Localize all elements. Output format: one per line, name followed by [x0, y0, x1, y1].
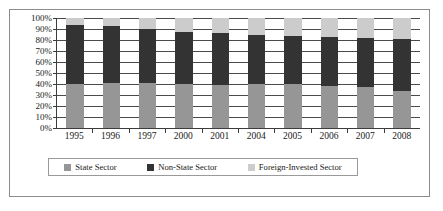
legend-item: State Sector — [64, 163, 116, 172]
chart-legend: State SectorNon-State SectorForeign-Inve… — [48, 158, 358, 176]
segment-state — [66, 84, 83, 128]
segment-non-state — [321, 37, 338, 87]
chart-figure: 0%10%20%30%40%50%60%70%80%90%100% 199519… — [9, 9, 430, 197]
bar-column — [167, 18, 200, 128]
x-tick-label: 1996 — [94, 131, 127, 142]
stacked-bar — [139, 18, 156, 128]
segment-foreign-invested — [321, 18, 338, 37]
y-tick-label: 30% — [36, 91, 53, 100]
segment-non-state — [248, 35, 265, 85]
bar-column — [349, 18, 382, 128]
x-tick-label: 1995 — [57, 131, 90, 142]
segment-foreign-invested — [103, 18, 120, 26]
x-tick-label: 2004 — [239, 131, 272, 142]
segment-state — [357, 87, 374, 128]
segment-state — [393, 91, 410, 128]
y-tick-label: 90% — [36, 25, 53, 34]
y-tick-label: 60% — [36, 58, 53, 67]
bar-column — [313, 18, 346, 128]
segment-foreign-invested — [357, 18, 374, 38]
x-tick-label: 1997 — [130, 131, 163, 142]
legend-label: Non-State Sector — [158, 163, 217, 172]
segment-state — [212, 85, 229, 128]
legend-item: Non-State Sector — [147, 163, 217, 172]
segment-foreign-invested — [248, 18, 265, 35]
segment-non-state — [103, 26, 120, 83]
legend-swatch-icon — [248, 164, 255, 171]
bar-column — [131, 18, 164, 128]
segment-non-state — [66, 25, 83, 84]
y-tick-label: 20% — [36, 102, 53, 111]
plot-area-wrapper: 0%10%20%30%40%50%60%70%80%90%100% 199519… — [20, 18, 420, 140]
x-tick-label: 2006 — [312, 131, 345, 142]
segment-state — [175, 84, 192, 128]
x-tick-label: 2007 — [349, 131, 382, 142]
bar-series-container — [57, 18, 420, 128]
y-tick-label: 0% — [40, 124, 52, 133]
segment-non-state — [175, 32, 192, 84]
bar-column — [95, 18, 128, 128]
x-axis: 1995199619972000200120042005200620072008 — [56, 131, 420, 142]
segment-foreign-invested — [139, 18, 156, 29]
bar-column — [240, 18, 273, 128]
plot-area — [56, 18, 420, 129]
segment-non-state — [357, 38, 374, 88]
bar-column — [276, 18, 309, 128]
segment-foreign-invested — [66, 18, 83, 25]
bar-column — [58, 18, 91, 128]
y-axis: 0%10%20%30%40%50%60%70%80%90%100% — [20, 18, 56, 128]
stacked-bar — [284, 18, 301, 128]
y-tick-label: 50% — [36, 69, 53, 78]
segment-foreign-invested — [175, 18, 192, 32]
stacked-bar — [212, 18, 229, 128]
segment-foreign-invested — [284, 18, 301, 36]
y-tick-label: 10% — [36, 113, 53, 122]
bar-column — [204, 18, 237, 128]
segment-non-state — [139, 29, 156, 83]
segment-state — [103, 83, 120, 128]
segment-non-state — [393, 39, 410, 91]
stacked-bar — [103, 18, 120, 128]
legend-label: Foreign-Invested Sector — [259, 163, 342, 172]
segment-state — [284, 84, 301, 128]
x-tick-label: 2000 — [167, 131, 200, 142]
segment-foreign-invested — [393, 18, 410, 39]
stacked-bar — [321, 18, 338, 128]
y-tick-label: 100% — [31, 14, 52, 23]
segment-state — [248, 84, 265, 128]
stacked-bar — [248, 18, 265, 128]
stacked-bar — [66, 18, 83, 128]
bar-column — [385, 18, 418, 128]
segment-non-state — [284, 36, 301, 84]
stacked-bar — [357, 18, 374, 128]
segment-non-state — [212, 33, 229, 85]
segment-state — [321, 86, 338, 128]
segment-state — [139, 83, 156, 128]
y-tick-label: 70% — [36, 47, 53, 56]
stacked-bar — [393, 18, 410, 128]
x-tick-label: 2005 — [276, 131, 309, 142]
legend-label: State Sector — [75, 163, 116, 172]
y-tick-label: 80% — [36, 36, 53, 45]
stacked-bar — [175, 18, 192, 128]
y-tick-label: 40% — [36, 80, 53, 89]
segment-foreign-invested — [212, 18, 229, 33]
x-tick-label: 2001 — [203, 131, 236, 142]
legend-swatch-icon — [64, 164, 71, 171]
x-tick-label: 2008 — [385, 131, 418, 142]
legend-swatch-icon — [147, 164, 154, 171]
legend-item: Foreign-Invested Sector — [248, 163, 342, 172]
